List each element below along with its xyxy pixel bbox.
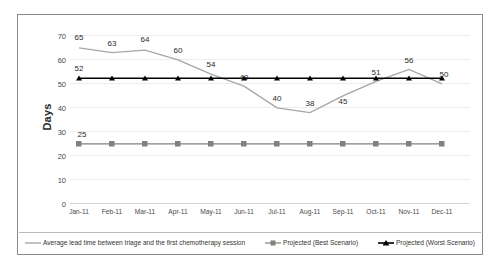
legend-triangle-swatch-worst [378,239,394,247]
data-label-average-11: 50 [431,70,457,79]
data-label-average-3: 60 [165,46,191,55]
legend-item-worst[interactable]: Projected (Worst Scenario) [378,239,475,247]
legend-label-worst: Projected (Worst Scenario) [396,239,475,246]
chart-legend: Average lead time between triage and the… [19,232,481,252]
data-label-average-5: 49 [231,73,257,82]
legend-label-average: Average lead time between triage and the… [43,239,245,246]
series-average-line [79,48,442,113]
chart-container: Days 70 60 50 40 30 20 10 0 [17,14,483,255]
data-label-worst-0: 52 [66,64,92,73]
plot-area: Days 70 60 50 40 30 20 10 0 [18,15,482,254]
data-label-best-0: 25 [69,130,95,139]
data-label-average-8: 45 [330,97,356,106]
data-label-average-10: 56 [396,56,422,65]
data-label-average-1: 63 [99,39,125,48]
data-label-average-6: 40 [264,94,290,103]
data-label-average-7: 38 [297,99,323,108]
legend-item-average[interactable]: Average lead time between triage and the… [25,239,245,247]
legend-square-swatch-best [265,239,281,247]
data-label-average-4: 54 [198,60,224,69]
legend-label-best: Projected (Best Scenario) [283,239,358,246]
legend-line-swatch-average [25,239,41,247]
data-label-average-9: 51 [363,68,389,77]
legend-item-best[interactable]: Projected (Best Scenario) [265,239,358,247]
data-label-average-0: 65 [66,33,92,42]
data-label-average-2: 64 [132,35,158,44]
x-tick-dec-11: Dec-11 [422,208,462,215]
